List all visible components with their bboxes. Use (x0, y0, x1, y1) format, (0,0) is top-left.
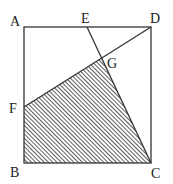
diagram-canvas: A E D G F B C (0, 0, 173, 184)
label-c: C (151, 166, 160, 181)
label-g: G (107, 56, 117, 71)
label-e: E (81, 11, 90, 26)
label-d: D (150, 11, 160, 26)
label-b: B (10, 165, 19, 180)
label-f: F (9, 101, 17, 116)
label-a: A (10, 14, 21, 29)
shaded-region-fgcb (24, 58, 151, 163)
geometry-diagram: A E D G F B C (0, 0, 173, 184)
